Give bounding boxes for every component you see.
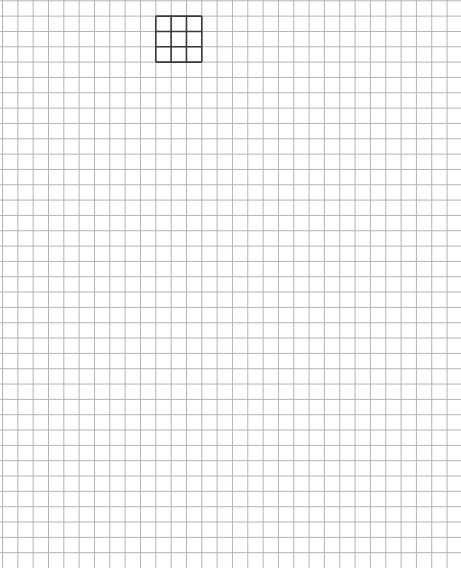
- graph-paper-grid: [0, 0, 461, 568]
- highlighted-3x3-box: [156, 16, 202, 62]
- grid-lines: [0, 0, 461, 568]
